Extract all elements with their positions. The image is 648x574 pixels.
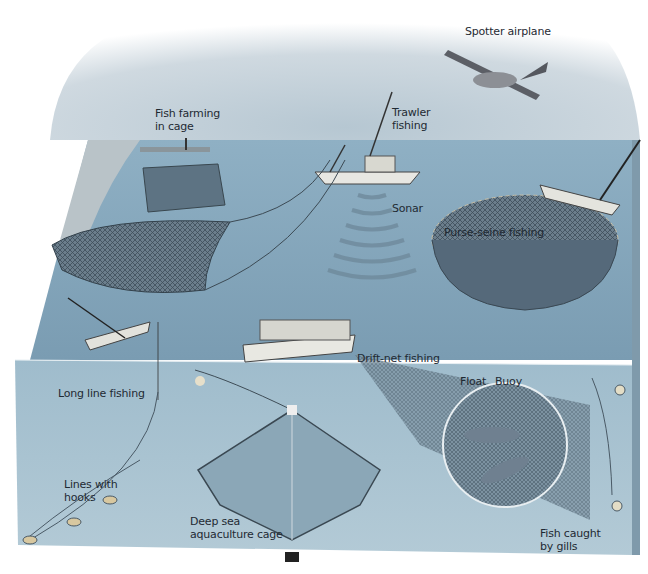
fishing-methods-diagram: Spotter airplane Fish farming in cage Tr… — [0, 0, 648, 574]
label-lines-hooks: Lines with hooks — [64, 478, 118, 504]
label-long-line: Long line fishing — [58, 387, 145, 400]
side-face — [632, 140, 640, 555]
label-sonar: Sonar — [392, 202, 423, 215]
label-fish-farming: Fish farming in cage — [155, 107, 220, 133]
label-drift-net: Drift-net fishing — [357, 352, 440, 365]
label-fish-gills: Fish caught by gills — [540, 527, 601, 553]
label-purse-seine: Purse-seine fishing — [444, 226, 544, 239]
label-float: Float — [460, 375, 486, 388]
label-spotter-airplane: Spotter airplane — [465, 25, 551, 38]
label-deep-sea-cage: Deep sea aquaculture cage — [190, 515, 283, 541]
gill-net-inset — [443, 383, 567, 507]
label-buoy: Buoy — [495, 375, 522, 388]
sky — [50, 10, 640, 140]
label-trawler-fishing: Trawler fishing — [392, 106, 430, 132]
